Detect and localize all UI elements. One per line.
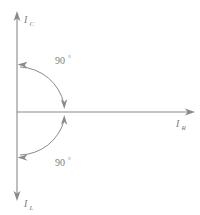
upper-angle-label: 90 xyxy=(55,55,65,66)
lower-arc-axis-arrowhead xyxy=(18,155,28,161)
axis-label-il-symbol: I xyxy=(23,198,28,209)
lower-angle-label: 90 xyxy=(55,157,65,168)
upper-ninety-degree-arc xyxy=(20,67,64,104)
axis-label-ic-subscript: C xyxy=(30,20,35,28)
phasor-diagram-canvas: I C I L I R 90 ° 90 ° xyxy=(0,0,200,215)
axis-label-il-subscript: L xyxy=(29,204,34,212)
phasor-diagram: I C I L I R 90 ° 90 ° xyxy=(0,0,200,215)
labels-group: I C I L I R 90 ° 90 ° xyxy=(23,14,187,212)
axis-label-ir-symbol: I xyxy=(175,118,180,129)
lower-angle-degree-symbol: ° xyxy=(68,156,71,164)
axis-label-ic-symbol: I xyxy=(23,14,28,25)
angle-arcs-group xyxy=(18,62,68,161)
axis-label-ir-subscript: R xyxy=(181,124,187,132)
axes-group xyxy=(14,11,195,201)
lower-arc-origin-arrowhead xyxy=(61,115,67,125)
upper-angle-degree-symbol: ° xyxy=(68,54,71,62)
lower-ninety-degree-arc xyxy=(20,121,64,155)
upper-arc-origin-arrowhead xyxy=(61,99,67,109)
